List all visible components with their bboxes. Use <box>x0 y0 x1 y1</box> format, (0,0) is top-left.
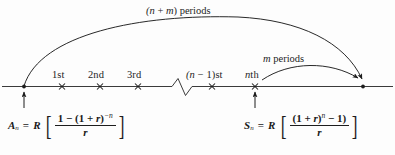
arc-total-m: m <box>166 5 174 16</box>
arc-m-rest: periods <box>273 53 304 64</box>
A-symbol: A <box>8 120 15 131</box>
tick-label-1st: 1st <box>52 70 65 81</box>
left-bracket-open-right: [ <box>281 115 287 137</box>
annuity-timeline-figure: (n + m) periods m periods 1st 2nd 3rd (n… <box>0 0 395 155</box>
arc-total-plus: + <box>157 5 163 16</box>
rnum-paren-close2: ) <box>343 112 347 124</box>
arc-m-var: m <box>263 53 271 64</box>
num-exponent: −n <box>104 111 113 120</box>
equals-sign-right: = <box>258 120 264 131</box>
tick-label-2nd: 2nd <box>88 70 104 81</box>
num-minus: − <box>66 112 72 124</box>
timeline-axis <box>2 79 393 96</box>
tick-label-n-minus-1st: (n − 1)st <box>186 70 223 81</box>
future-value-denominator: r <box>317 126 321 138</box>
future-value-numerator: (1 + r)n − 1) <box>290 113 350 125</box>
rnum-plus: + <box>305 112 311 124</box>
R-coefficient-left: R <box>33 120 40 131</box>
num-one: 1 <box>58 112 64 124</box>
S-subscript: n <box>250 125 254 132</box>
m-periods-arc-label: m periods <box>263 54 304 65</box>
rnum-minus: − <box>328 112 334 124</box>
arc-total-rest: ) periods <box>174 5 211 16</box>
right-bracket-close-left: ] <box>119 115 125 137</box>
rnum-exponent: n <box>321 111 325 120</box>
present-value-formula: An = R [ 1 − (1 + r)−n r ] <box>8 113 126 138</box>
arc-total-n: n <box>150 5 155 16</box>
right-bracket-close-right: ] <box>352 115 358 137</box>
R-coefficient-right: R <box>268 120 275 131</box>
present-value-lhs: An = R <box>8 120 44 131</box>
m-periods-arc <box>262 65 358 80</box>
equals-sign-left: = <box>23 120 29 131</box>
A-subscript: n <box>15 125 19 132</box>
tick-label-3rd: 3rd <box>127 70 141 81</box>
total-periods-arc-label: (n + m) periods <box>146 6 211 17</box>
tick-label-nth: nth <box>245 70 259 81</box>
present-value-fraction: 1 − (1 + r)−n r <box>55 113 116 138</box>
future-value-lhs: Sn = R <box>244 120 279 131</box>
present-value-numerator: 1 − (1 + r)−n <box>55 113 116 125</box>
num-one2: 1 <box>79 112 85 124</box>
future-value-fraction: (1 + r)n − 1) r <box>290 113 350 138</box>
num-plus: + <box>87 112 93 124</box>
rnum-one: 1 <box>296 112 302 124</box>
future-value-formula: Sn = R [ (1 + r)n − 1) r ] <box>244 113 360 138</box>
present-value-denominator: r <box>83 126 87 138</box>
left-bracket-open-left: [ <box>46 115 52 137</box>
